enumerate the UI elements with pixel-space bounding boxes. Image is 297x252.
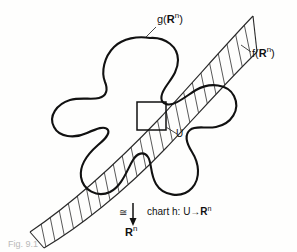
- label-chart-map: chart h: U→Rn: [147, 207, 212, 217]
- label-f-close: ): [271, 47, 275, 59]
- label-target-exponent: n: [133, 224, 137, 233]
- label-g-reals-symbol: R: [167, 13, 175, 25]
- manifold-blob-outline: [52, 37, 236, 195]
- band-upper-edge: [30, 16, 253, 232]
- label-chart-text: chart h: U→: [147, 206, 200, 217]
- chart-map-arrow: [130, 203, 137, 226]
- label-f-image: f(Rn): [252, 48, 275, 59]
- label-target-space: Rn: [125, 227, 137, 238]
- label-g-image: g(Rn): [157, 14, 183, 25]
- label-f-reals-symbol: R: [259, 47, 267, 59]
- label-neighborhood-u: U: [176, 129, 183, 139]
- figure-container: g(Rn) f(Rn) U ≅ chart h: U→Rn Rn Fig. 9.…: [0, 0, 297, 252]
- label-chart-reals-symbol: R: [200, 206, 207, 217]
- label-chart-exponent: n: [208, 204, 212, 213]
- band-lower-edge: [44, 52, 257, 248]
- label-congruent-symbol: ≅: [119, 208, 127, 218]
- label-g-close: ): [179, 13, 183, 25]
- label-target-reals-symbol: R: [125, 226, 133, 238]
- g-leader-line: [146, 27, 156, 37]
- figure-caption: Fig. 9.1: [8, 240, 38, 249]
- label-g-open: g(: [157, 13, 167, 25]
- label-f-open: f(: [252, 47, 259, 59]
